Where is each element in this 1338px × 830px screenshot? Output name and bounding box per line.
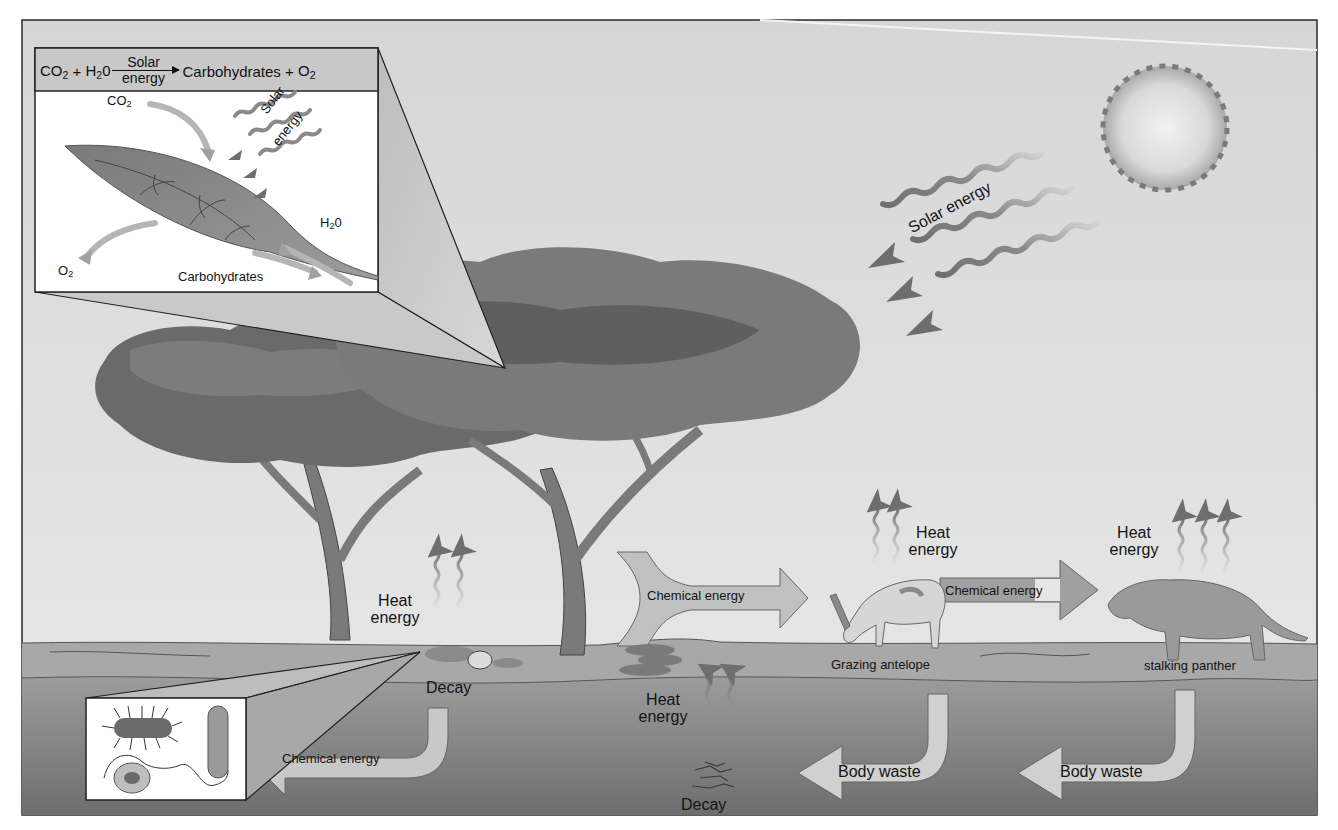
eq-plus: + <box>281 63 298 80</box>
label-chemical-energy-antelope-panther: Chemical energy <box>945 584 1043 598</box>
ecosystem-energy-flow-diagram: CO2 + H20 Solar energy Carbohydrates + O… <box>0 0 1338 830</box>
inset-label-carbohydrates: Carbohydrates <box>178 270 263 284</box>
eq-o2: O2 <box>298 62 316 81</box>
reaction-arrow-icon <box>112 70 174 71</box>
label-heat-energy-panther: Heatenergy <box>1099 525 1169 559</box>
label-decay-surface: Decay <box>426 680 471 697</box>
photosynthesis-equation: CO2 + H20 Solar energy Carbohydrates + O… <box>40 52 376 90</box>
inset-label-co2: CO2 <box>107 94 132 110</box>
label-decay-underground: Decay <box>681 797 726 814</box>
sun-icon <box>1103 66 1227 190</box>
label-heat-energy-underground: Heatenergy <box>628 692 698 726</box>
eq-co2: CO2 <box>40 62 68 81</box>
eq-h2o: H20 <box>85 62 110 81</box>
eq-plus: + <box>68 63 85 80</box>
eq-reaction-arrow: Solar energy <box>112 55 174 86</box>
label-grazing-antelope: Grazing antelope <box>831 658 930 672</box>
inset-label-h2o: H20 <box>320 216 342 232</box>
label-heat-energy-decay: Heatenergy <box>360 593 430 627</box>
label-body-waste-panther: Body waste <box>1060 764 1143 781</box>
label-stalking-panther: stalking panther <box>1144 659 1236 673</box>
eq-carbohydrates: Carbohydrates <box>182 63 280 80</box>
label-chemical-energy-tree-antelope: Chemical energy <box>647 589 745 603</box>
label-chemical-energy-decay-microbes: Chemical energy <box>282 752 380 766</box>
label-body-waste-antelope: Body waste <box>838 764 921 781</box>
inset-label-o2: O2 <box>58 264 73 280</box>
label-heat-energy-antelope: Heatenergy <box>898 525 968 559</box>
